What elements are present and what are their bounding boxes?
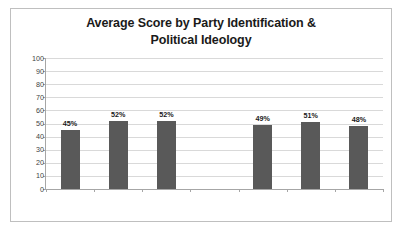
- x-tick-mark: [335, 189, 336, 192]
- gridline: [46, 124, 383, 125]
- bar-value-label: 51%: [291, 112, 331, 120]
- y-axis-tick-label: 50: [14, 120, 44, 127]
- y-axis-tick-label: 70: [14, 94, 44, 101]
- gridline: [46, 84, 383, 85]
- gridline: [46, 97, 383, 98]
- x-tick-mark: [94, 189, 95, 192]
- bar[interactable]: [109, 121, 128, 189]
- x-tick-mark: [142, 189, 143, 192]
- bar-value-label: 49%: [243, 115, 283, 123]
- gridline: [46, 137, 383, 138]
- chart-container: Average Score by Party Identification & …: [10, 8, 392, 222]
- y-axis-tick-label: 20: [14, 159, 44, 166]
- chart-title-line-2: Political Ideology: [11, 32, 391, 49]
- gridline: [46, 176, 383, 177]
- gridline: [46, 58, 383, 59]
- y-axis-tick-label: 80: [14, 81, 44, 88]
- bar[interactable]: [157, 121, 176, 189]
- bar-value-label: 52%: [98, 111, 138, 119]
- y-axis-tick-label: 30: [14, 146, 44, 153]
- gridline: [46, 71, 383, 72]
- chart-title-line-1: Average Score by Party Identification &: [11, 15, 391, 32]
- bar-value-label: 48%: [339, 116, 379, 124]
- y-axis-tick-label: 90: [14, 68, 44, 75]
- gridline: [46, 163, 383, 164]
- bar[interactable]: [349, 126, 368, 189]
- bar-value-label: 52%: [146, 111, 186, 119]
- plot-area: 010203040506070809010045%Democrat52%Repu…: [46, 58, 383, 189]
- y-axis-tick-label: 40: [14, 133, 44, 140]
- y-axis-tick-label: 10: [14, 172, 44, 179]
- x-tick-mark: [46, 189, 47, 192]
- x-tick-mark: [239, 189, 240, 192]
- x-tick-mark: [383, 189, 384, 192]
- x-tick-mark: [190, 189, 191, 192]
- bar-value-label: 45%: [50, 120, 90, 128]
- gridline: [46, 150, 383, 151]
- bar[interactable]: [301, 122, 320, 189]
- y-axis-tick-label: 100: [14, 55, 44, 62]
- x-tick-mark: [287, 189, 288, 192]
- y-axis-tick-label: 0: [14, 186, 44, 193]
- bar[interactable]: [253, 125, 272, 189]
- y-axis-tick-label: 60: [14, 107, 44, 114]
- gridline: [46, 110, 383, 111]
- bar[interactable]: [61, 130, 80, 189]
- chart-title: Average Score by Party Identification & …: [11, 15, 391, 49]
- x-axis-baseline: [46, 189, 383, 190]
